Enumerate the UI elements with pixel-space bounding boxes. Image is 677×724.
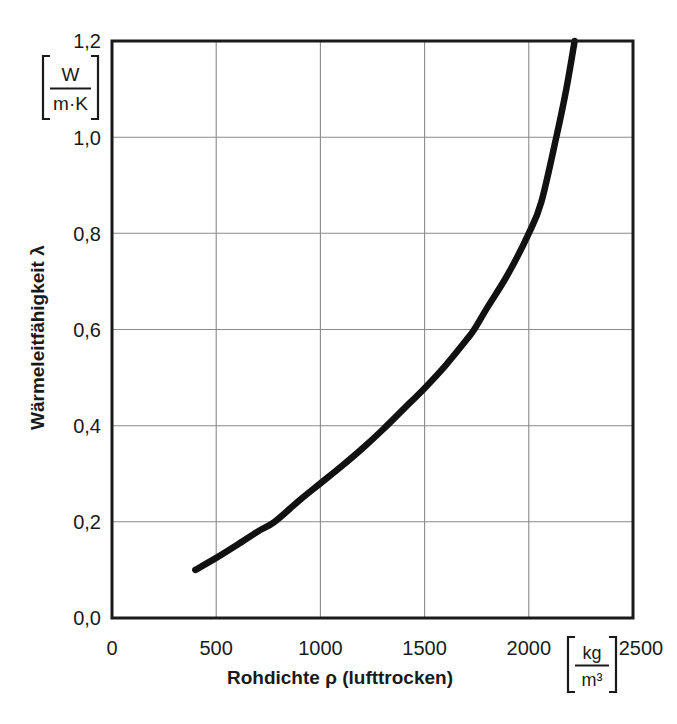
thermal-conductivity-chart: 1,2 1,0 0,8 0,6 0,4 0,2 0,0 W m·K Wärmel… [0, 0, 677, 724]
y-tick-label-0_8: 0,8 [73, 223, 101, 245]
y-tick-label-1_2: 1,2 [73, 30, 101, 52]
y-unit-denominator: m·K [53, 93, 88, 114]
y-tick-label-0_2: 0,2 [73, 511, 101, 533]
x-tick-label-0: 0 [106, 637, 117, 659]
x-unit-numerator: kg [582, 643, 601, 663]
x-tick-label-500: 500 [200, 637, 233, 659]
y-axis-title: Wärmeleitfähigkeit λ [27, 245, 48, 430]
y-tick-label-0_4: 0,4 [73, 415, 101, 437]
y-axis-unit-bracket: W m·K [43, 56, 98, 119]
x-tick-label-1000: 1000 [298, 637, 343, 659]
bracket-left-y-unit [43, 56, 50, 119]
x-tick-label-2500: 2500 [619, 637, 664, 659]
bracket-right-x-unit [609, 637, 616, 692]
x-axis-unit-bracket: kg m³ [568, 637, 616, 692]
y-tick-label-1_0: 1,0 [73, 127, 101, 149]
bracket-right-y-unit [91, 56, 98, 119]
x-tick-label-1500: 1500 [402, 637, 447, 659]
y-tick-label-0_0: 0,0 [73, 607, 101, 629]
y-unit-numerator: W [62, 64, 80, 85]
x-unit-denominator: m³ [582, 670, 603, 690]
x-axis-title: Rohdichte ρ (lufttrocken) [227, 667, 453, 688]
bracket-left-x-unit [568, 637, 575, 692]
x-axis-tick-labels: 0 500 1000 1500 2000 2500 [106, 637, 663, 659]
chart-svg: 1,2 1,0 0,8 0,6 0,4 0,2 0,0 W m·K Wärmel… [0, 0, 677, 724]
x-tick-label-2000: 2000 [507, 637, 552, 659]
y-tick-label-0_6: 0,6 [73, 319, 101, 341]
